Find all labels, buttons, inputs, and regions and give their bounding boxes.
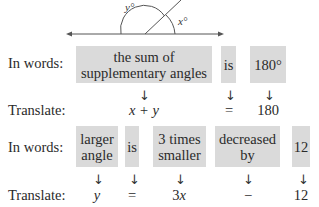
phrase-text: smaller — [158, 147, 201, 163]
phrase-text: supplementary angles — [81, 65, 207, 81]
down-arrow-icon: ↓ — [264, 89, 275, 102]
down-arrow-icon: ↓ — [93, 173, 104, 186]
phrase-text: 12 — [294, 139, 309, 155]
phrase-text: is — [127, 139, 137, 155]
down-arrow-icon: ↓ — [298, 173, 309, 186]
phrase-is: is — [221, 46, 236, 83]
phrase-text: angle — [81, 147, 112, 163]
translation-equals: = — [122, 187, 142, 204]
phrase-text: 3 times — [158, 131, 200, 147]
down-arrow-icon: ↓ — [243, 173, 254, 186]
phrase-text: 180° — [254, 57, 282, 73]
row1-words-label: In words: — [8, 55, 63, 72]
down-arrow-icon: ↓ — [225, 89, 236, 102]
phrase-3-times-smaller: 3 times smaller — [153, 126, 206, 167]
angle-label-x: x° — [177, 15, 188, 27]
translation-12: 12 — [290, 187, 312, 204]
down-arrow-icon: ↓ — [139, 89, 150, 102]
angle-label-y: y° — [124, 1, 135, 13]
translation-x-plus-y: x + y — [114, 102, 174, 119]
row2-words-label: In words: — [8, 139, 63, 156]
translation-180: 180 — [252, 102, 284, 119]
phrase-text: larger — [80, 131, 114, 147]
phrase-decreased-by: decreased by — [215, 126, 280, 167]
phrase-12: 12 — [292, 126, 310, 167]
phrase-text: is — [224, 57, 234, 73]
translation-y: y — [87, 187, 107, 204]
translation-minus: − — [238, 187, 258, 204]
row2-translate-label: Translate: — [8, 187, 65, 204]
supplementary-angles-figure: y° x° — [0, 0, 319, 40]
phrase-sum-of-supplementary-angles: the sum of supplementary angles — [76, 46, 212, 83]
translation-equals: = — [219, 102, 239, 119]
row1-translate-label: Translate: — [8, 102, 65, 119]
phrase-text: by — [240, 147, 255, 163]
down-arrow-icon: ↓ — [175, 173, 186, 186]
translation-3x: 3x — [164, 187, 194, 204]
phrase-text: the sum of — [113, 49, 174, 65]
phrase-is: is — [125, 126, 139, 167]
phrase-larger-angle: larger angle — [76, 126, 118, 167]
phrase-text: decreased — [219, 131, 276, 147]
phrase-180-degrees: 180° — [250, 46, 286, 83]
down-arrow-icon: ↓ — [129, 173, 140, 186]
